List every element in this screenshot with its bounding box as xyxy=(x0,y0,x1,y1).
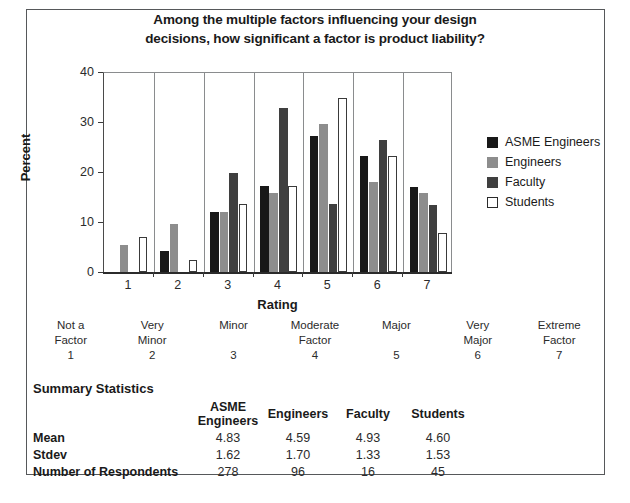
stats-column-header: Faculty xyxy=(333,399,403,430)
bar-students-rating-6 xyxy=(388,156,397,273)
legend-swatch-icon xyxy=(487,157,498,168)
legend-label: Engineers xyxy=(505,155,561,169)
scale-descriptor-line-2 xyxy=(193,333,274,348)
y-axis-tick-labels: 010203040 xyxy=(58,72,94,272)
bar-engineers-rating-4 xyxy=(269,193,278,273)
legend-item-students: Students xyxy=(487,193,600,211)
bar-engineers-rating-3 xyxy=(220,212,229,272)
legend-item-asme-engineers: ASME Engineers xyxy=(487,133,600,151)
bar-asme-engineers-rating-7 xyxy=(410,187,419,272)
scale-descriptor-line-1: Extreme xyxy=(519,318,600,333)
scale-descriptor-number: 2 xyxy=(111,348,192,363)
stats-corner-cell xyxy=(33,399,193,430)
stats-column-header: Engineers xyxy=(263,399,333,430)
chart-title-line-2: decisions, how significant a factor is p… xyxy=(40,30,590,49)
scale-descriptor-7: ExtremeFactor7 xyxy=(519,318,600,364)
scale-descriptor-line-2: Factor xyxy=(274,333,355,348)
y-axis-tick-mark xyxy=(98,272,103,273)
scale-descriptor-number: 7 xyxy=(519,348,600,363)
x-axis-tick-label-7: 7 xyxy=(407,278,447,292)
legend-swatch-icon xyxy=(487,137,498,148)
stats-header-row: ASME EngineersEngineersFacultyStudents xyxy=(33,399,473,430)
bar-group-rating-6 xyxy=(353,72,403,272)
y-axis-tick-mark xyxy=(98,172,103,173)
x-axis-tick-mark xyxy=(253,272,254,277)
scale-descriptor-line-1: Very xyxy=(437,318,518,333)
y-axis-tick-label: 30 xyxy=(62,115,94,129)
x-axis-tick-mark xyxy=(203,272,204,277)
bar-asme-engineers-rating-4 xyxy=(260,186,269,272)
bar-asme-engineers-rating-3 xyxy=(210,212,219,272)
stats-cell: 4.93 xyxy=(333,430,403,447)
stats-cell: 16 xyxy=(333,463,403,480)
stats-table-row: Number of Respondents278961645 xyxy=(33,463,473,480)
stats-row-label: Stdev xyxy=(33,447,193,464)
summary-statistics-block: Summary Statistics ASME EngineersEnginee… xyxy=(33,381,593,480)
legend-swatch-icon xyxy=(487,197,498,208)
stats-cell: 96 xyxy=(263,463,333,480)
stats-row-label: Number of Respondents xyxy=(33,463,193,480)
x-axis-tick-label-5: 5 xyxy=(307,278,347,292)
bar-group-rating-3 xyxy=(204,72,254,272)
bar-students-rating-3 xyxy=(239,204,248,272)
x-axis-tick-mark xyxy=(302,272,303,277)
y-axis-tick-mark xyxy=(98,122,103,123)
stats-table-row: Stdev1.621.701.331.53 xyxy=(33,447,473,464)
scale-descriptor-3: Minor 3 xyxy=(193,318,274,364)
bar-asme-engineers-rating-6 xyxy=(360,156,369,273)
stats-cell: 1.62 xyxy=(193,447,263,464)
figure-caption xyxy=(4,487,624,500)
x-axis-tick-label-2: 2 xyxy=(158,278,198,292)
scale-descriptor-number: 1 xyxy=(30,348,111,363)
bar-group-rating-4 xyxy=(254,72,304,272)
stats-table-row: Mean4.834.594.934.60 xyxy=(33,430,473,447)
stats-cell: 1.53 xyxy=(403,447,473,464)
y-axis-tick-label: 40 xyxy=(62,65,94,79)
bar-faculty-rating-5 xyxy=(329,204,338,272)
bar-students-rating-2 xyxy=(189,260,198,272)
x-axis-tick-mark xyxy=(153,272,154,277)
plot-area xyxy=(103,72,452,272)
legend-label: Students xyxy=(505,195,554,209)
stats-cell: 4.83 xyxy=(193,430,263,447)
bar-faculty-rating-4 xyxy=(279,108,288,272)
bar-faculty-rating-6 xyxy=(379,140,388,273)
bar-group-rating-2 xyxy=(154,72,204,272)
bar-students-rating-1 xyxy=(139,237,148,272)
chart-legend: ASME EngineersEngineersFacultyStudents xyxy=(487,133,600,213)
bar-faculty-rating-3 xyxy=(229,173,238,272)
x-axis-title: Rating xyxy=(103,297,452,312)
scale-descriptor-number: 4 xyxy=(274,348,355,363)
bar-engineers-rating-6 xyxy=(369,182,378,273)
bar-group-rating-1 xyxy=(104,72,154,272)
bar-engineers-rating-1 xyxy=(120,245,129,272)
bar-asme-engineers-rating-2 xyxy=(160,251,169,273)
x-axis-tick-label-1: 1 xyxy=(108,278,148,292)
scale-descriptor-number: 6 xyxy=(437,348,518,363)
bar-asme-engineers-rating-5 xyxy=(310,136,319,272)
legend-item-engineers: Engineers xyxy=(487,153,600,171)
summary-statistics-heading: Summary Statistics xyxy=(33,381,593,396)
scale-descriptor-line-1: Minor xyxy=(193,318,274,333)
stats-cell: 45 xyxy=(403,463,473,480)
bar-faculty-rating-7 xyxy=(429,205,438,272)
x-axis-tick-mark xyxy=(402,272,403,277)
bar-students-rating-5 xyxy=(338,98,347,272)
stats-column-header: ASME Engineers xyxy=(193,399,263,430)
x-axis-tick-label-4: 4 xyxy=(258,278,298,292)
stats-cell: 4.60 xyxy=(403,430,473,447)
summary-statistics-table: ASME EngineersEngineersFacultyStudents M… xyxy=(33,399,473,480)
scale-descriptor-line-2: Major xyxy=(437,333,518,348)
scale-descriptor-line-2 xyxy=(356,333,437,348)
scale-descriptor-4: ModerateFactor4 xyxy=(274,318,355,364)
chart-title: Among the multiple factors influencing y… xyxy=(40,11,590,48)
scale-descriptor-line-1: Not a xyxy=(30,318,111,333)
stats-column-header: Students xyxy=(403,399,473,430)
stats-table-body: Mean4.834.594.934.60Stdev1.621.701.331.5… xyxy=(33,430,473,480)
stats-cell: 1.70 xyxy=(263,447,333,464)
x-axis-tick-mark xyxy=(352,272,353,277)
scale-descriptor-line-2: Factor xyxy=(30,333,111,348)
bar-group-rating-5 xyxy=(303,72,353,272)
bar-students-rating-4 xyxy=(288,186,297,272)
y-axis-tick-label: 0 xyxy=(62,265,94,279)
